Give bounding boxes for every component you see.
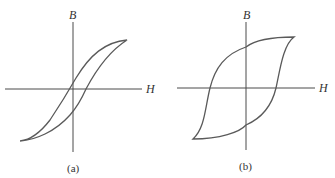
h-axis-label-b: H: [318, 81, 329, 95]
hysteresis-figure: B H (a) B H (b): [0, 0, 335, 178]
panel-b: B H (b): [177, 8, 329, 173]
b-axis-label-a: B: [69, 8, 77, 22]
caption-a: (a): [67, 162, 80, 175]
b-axis-label-b: B: [243, 8, 251, 22]
panel-a: B H (a): [5, 8, 156, 175]
h-axis-label-a: H: [145, 82, 156, 96]
caption-b: (b): [239, 160, 252, 173]
